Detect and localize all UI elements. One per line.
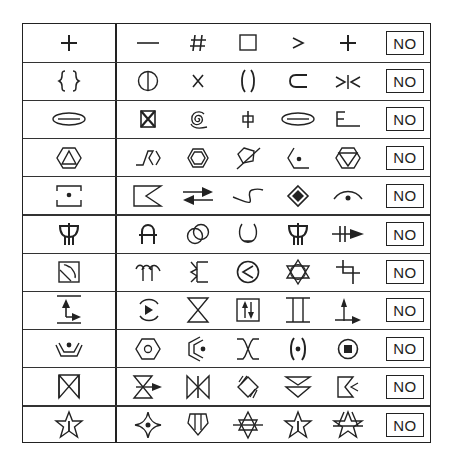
option-star-of-david-circle-icon[interactable] [283,253,313,291]
table-row: NO [23,291,430,329]
option-parentheses-icon[interactable] [233,62,263,100]
option-pentagon-slash-icon[interactable] [233,139,263,177]
reference-symbol-star-line-icon [23,406,115,444]
option-spiral-icon[interactable] [183,100,213,138]
option-double-arc-stem-icon[interactable] [133,253,163,291]
no-button[interactable]: NO [386,107,424,131]
option-crossed-diamond-icon[interactable] [233,368,263,406]
reference-symbol-bowtie-box-icon [23,368,115,406]
option-circled-square-icon[interactable] [333,330,363,368]
option-subset-icon[interactable] [283,62,313,100]
no-button[interactable]: NO [386,298,424,322]
option-zigzag-chevron-icon[interactable] [133,139,163,177]
table-row: NO [23,177,430,215]
option-dash-icon[interactable] [133,24,163,62]
option-hexagon-circle-icon[interactable] [133,330,163,368]
option-arc-dot-icon[interactable] [333,177,363,215]
option-star-crossbar-icon[interactable] [333,406,363,444]
option-plus-icon[interactable] [333,24,363,62]
table-row: NO [23,330,430,368]
option-open-cup-icon[interactable] [233,215,263,253]
reference-symbol-trident-cup-icon [23,215,115,253]
option-hexagon-inverted-triangle-icon[interactable] [333,139,363,177]
table-row: NO [23,62,430,100]
table-row: NO [23,368,430,406]
option-x-crossed-arcs-icon[interactable] [233,330,263,368]
option-square-icon[interactable] [233,24,263,62]
option-circle-less-than-icon[interactable] [233,253,263,291]
option-bracket-twist-icon[interactable] [183,253,213,291]
table-row: NO [23,215,430,253]
option-hash-icon[interactable] [183,24,213,62]
table-row: NO [23,24,430,62]
reference-symbol-plus-icon [23,24,115,62]
no-button[interactable]: NO [386,337,424,361]
option-greater-than-icon[interactable] [283,24,313,62]
reference-symbol-curly-braces-icon [23,62,115,100]
option-shield-lines-icon[interactable] [183,406,213,444]
table-row: NO [23,100,430,138]
option-s-curve-icon[interactable] [233,177,263,215]
option-bowtie-bar-icon[interactable] [333,62,363,100]
reference-symbol-boxed-squiggle-icon [23,253,115,291]
symbol-table: NO NO NO NO [22,23,431,443]
option-double-hexagon-icon[interactable] [183,139,213,177]
option-double-chevron-dot-icon[interactable] [183,330,213,368]
option-arch-bar-icon[interactable] [133,215,163,253]
option-phi-like-icon[interactable] [233,100,263,138]
no-button[interactable]: NO [386,69,424,93]
no-button[interactable]: NO [386,31,424,55]
option-e-underline-icon[interactable] [333,100,363,138]
option-i-beam-icon[interactable] [283,291,313,329]
no-button[interactable]: NO [386,260,424,284]
no-button[interactable]: NO [386,222,424,246]
option-x-letter-icon[interactable] [183,62,213,100]
no-button[interactable]: NO [386,146,424,170]
option-hourglass-arrow-icon[interactable] [133,368,163,406]
reference-symbol-bar-arrows-base-icon [23,291,115,329]
option-flag-double-chevron-icon[interactable] [333,368,363,406]
option-diamond-in-diamond-icon[interactable] [283,177,313,215]
reference-symbol-dot-in-bracket-box-icon [23,177,115,215]
option-offset-cross-icon[interactable] [333,253,363,291]
option-circle-vertical-line-icon[interactable] [133,62,163,100]
option-opposing-arrows-icon[interactable] [183,177,213,215]
no-button[interactable]: NO [386,375,424,399]
reference-symbol-hexagon-triangle-icon [23,139,115,177]
option-star-of-david-bar-icon[interactable] [233,406,263,444]
option-ellipse-bar-icon[interactable] [283,100,313,138]
option-double-down-triangle-icon[interactable] [283,368,313,406]
option-overlapping-circles-icon[interactable] [183,215,213,253]
option-hourglass-icon[interactable] [183,291,213,329]
reference-symbol-ellipse-bar-icon [23,100,115,138]
option-half-hexagon-dot-icon[interactable] [283,139,313,177]
option-up-right-arrows-icon[interactable] [333,291,363,329]
table-row: NO [23,253,430,291]
option-boxed-updown-arrows-icon[interactable] [233,291,263,329]
option-flag-notch-icon[interactable] [133,177,163,215]
option-star-line-icon[interactable] [283,406,313,444]
option-circle-play-icon[interactable] [133,291,163,329]
option-trident-cup-icon[interactable] [283,215,313,253]
option-parenthesized-dot-icon[interactable] [283,330,313,368]
option-boxed-x-icon[interactable] [133,100,163,138]
no-button[interactable]: NO [386,184,424,208]
table-row: NO [23,139,430,177]
option-four-point-star-dot-icon[interactable] [133,406,163,444]
reference-symbol-tray-dot-icon [23,330,115,368]
no-button[interactable]: NO [386,413,424,437]
table-row: NO [23,406,430,444]
option-bowtie-bar-vertical-icon[interactable] [183,368,213,406]
option-double-bar-arrow-icon[interactable] [333,215,363,253]
